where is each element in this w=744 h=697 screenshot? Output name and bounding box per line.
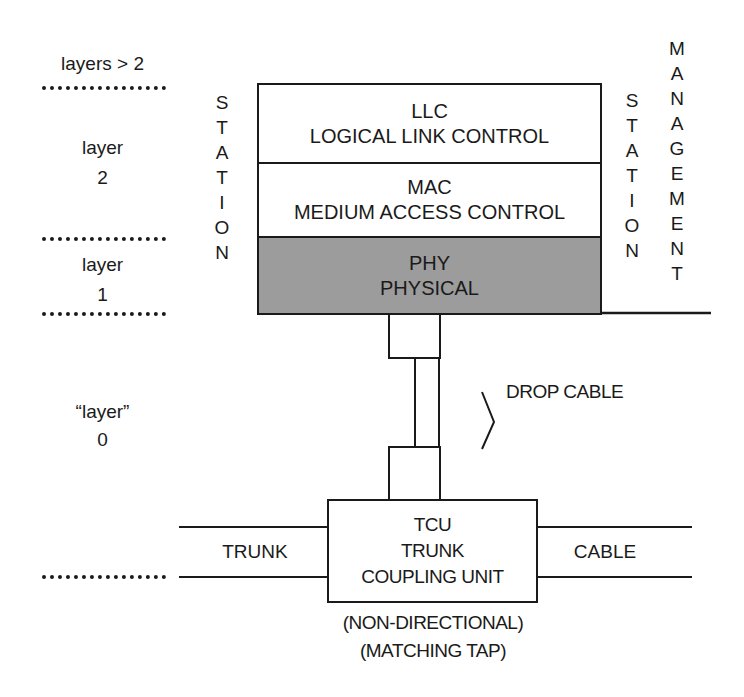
station-letter: T [216,115,228,140]
label-layer-1: layer 1 [40,254,165,306]
layer-2-word: layer [40,137,165,159]
phy-abbr: PHY [409,251,450,276]
label-layer-2: layer 2 [40,137,165,189]
layer-llc: LLC LOGICAL LINK CONTROL [259,85,600,164]
management-label: M A N A G E M E N T [665,36,689,286]
tcu-note-non-directional: (NON-DIRECTIONAL) [300,612,566,634]
tcu-abbr: TCU [414,512,452,538]
management-letter: E [671,161,684,186]
tcu-note-matching-tap: (MATCHING TAP) [300,640,566,662]
station-letter: I [629,188,634,213]
station-letter: O [625,213,640,238]
management-letter: N [670,86,684,111]
mac-name: MEDIUM ACCESS CONTROL [294,200,565,225]
station-letter: S [626,88,639,113]
station-label-left: S T A T I O N [210,90,234,265]
dotted-divider-layer1-layer0 [42,312,166,316]
layer-0-number: 0 [40,429,165,451]
protocol-stack: LLC LOGICAL LINK CONTROL MAC MEDIUM ACCE… [257,83,602,315]
layer-0-word: “layer” [40,401,165,423]
management-letter: A [671,111,684,136]
layer-2-number: 2 [40,167,165,189]
station-letter: T [626,163,638,188]
tcu-line-coupling-unit: COUPLING UNIT [361,564,503,590]
management-letter: E [671,211,684,236]
layer-mac: MAC MEDIUM ACCESS CONTROL [259,164,600,238]
station-letter: N [625,238,639,263]
cable-label: CABLE [555,541,655,563]
drop-cable-bracket [482,392,494,449]
mac-abbr: MAC [407,175,451,200]
station-label-right: S T A T I O N [620,88,644,263]
management-letter: G [670,136,685,161]
management-letter: A [671,61,684,86]
lower-connector [389,447,440,500]
station-letter: O [215,215,230,240]
drop-cable-label: DROP CABLE [506,381,623,403]
layer-1-number: 1 [40,284,165,306]
dotted-divider-top [42,86,166,90]
tcu-line-trunk: TRUNK [401,538,464,564]
label-layers-above-2: layers > 2 [40,53,165,75]
station-letter: A [626,138,639,163]
management-letter: T [671,261,683,286]
trunk-label: TRUNK [205,541,305,563]
layer-1-word: layer [40,254,165,276]
station-letter: T [216,165,228,190]
llc-abbr: LLC [411,99,448,124]
label-layer-0: “layer” 0 [40,401,165,451]
station-letter: T [626,113,638,138]
management-letter: M [669,186,685,211]
station-letter: A [216,140,229,165]
station-letter: I [219,190,224,215]
tcu-box: TCU TRUNK COUPLING UNIT [327,499,538,603]
station-letter: S [216,90,229,115]
dotted-divider-layer2-layer1 [42,237,166,241]
llc-name: LOGICAL LINK CONTROL [310,124,549,149]
management-letter: N [670,236,684,261]
station-letter: N [215,240,229,265]
dotted-divider-bottom [42,575,166,579]
management-letter: M [669,36,685,61]
layer-phy: PHY PHYSICAL [259,238,600,313]
upper-connector [389,313,440,358]
phy-name: PHYSICAL [380,276,479,301]
